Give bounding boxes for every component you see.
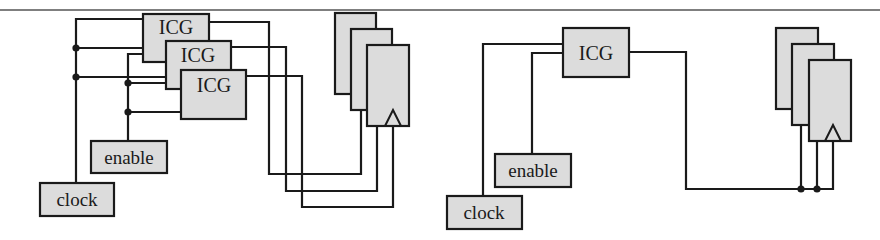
- right-icg: ICG: [563, 28, 629, 77]
- junction-dot: [797, 185, 804, 192]
- clock-label: clock: [56, 189, 98, 210]
- left-icg-3: ICG: [181, 70, 246, 119]
- enable-label: enable: [104, 147, 154, 168]
- right-flip-flop-3: [809, 60, 851, 141]
- icg-label: ICG: [197, 74, 231, 96]
- junction-dot: [124, 108, 131, 115]
- left-flip-flop-3: [367, 45, 409, 126]
- clock-label: clock: [463, 202, 505, 223]
- clock-gating-diagram: ICG ICG ICG enable clock: [0, 0, 880, 240]
- right-clock-input: clock: [447, 196, 522, 229]
- junction-dot: [72, 73, 79, 80]
- junction-dot: [72, 44, 79, 51]
- left-panel: ICG ICG ICG enable clock: [40, 13, 409, 216]
- icg-label: ICG: [181, 44, 215, 66]
- junction-dot: [124, 79, 131, 86]
- right-enable-input: enable: [495, 154, 571, 187]
- junction-dot: [813, 185, 820, 192]
- icg-label: ICG: [159, 16, 193, 38]
- left-clock-input: clock: [40, 183, 114, 216]
- right-enable-net: [532, 53, 563, 154]
- icg-label: ICG: [579, 42, 613, 64]
- left-enable-input: enable: [91, 141, 167, 173]
- enable-label: enable: [508, 160, 558, 181]
- right-panel: ICG enable clock: [447, 28, 851, 229]
